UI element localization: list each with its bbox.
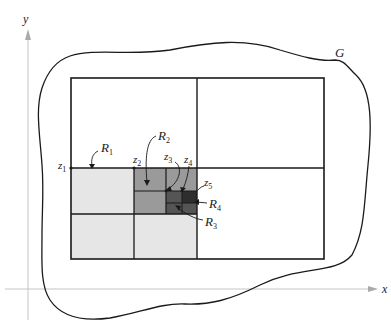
label-z5: z5 [203, 176, 212, 191]
label-z1: z1 [57, 159, 66, 174]
cell-lower-mid [134, 214, 197, 259]
label-r3: R3 [204, 214, 217, 231]
leader-r1 [92, 151, 98, 166]
label-z3: z3 [163, 150, 172, 165]
cell-lower-left [71, 214, 134, 259]
point-z2 [132, 166, 135, 169]
cell-r4 [182, 191, 197, 203]
label-r1: R1 [100, 140, 113, 157]
point-z1 [69, 166, 72, 169]
label-r2: R2 [157, 128, 170, 145]
label-z4: z4 [183, 153, 192, 168]
label-r4: R4 [208, 196, 221, 213]
x-axis-label: x [381, 282, 388, 296]
y-axis-arrow-icon [25, 29, 31, 40]
label-z2: z2 [132, 153, 141, 168]
cell-r1 [71, 168, 134, 214]
y-axis-label: y [22, 12, 29, 26]
region-g-label: G [335, 45, 345, 60]
x-axis-arrow-icon [368, 286, 378, 292]
nested-rectangles-diagram: x y G [0, 0, 391, 329]
